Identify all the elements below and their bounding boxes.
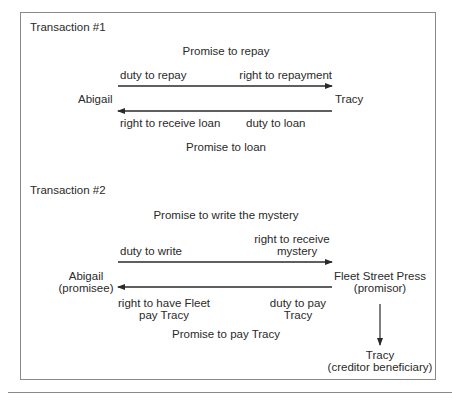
t1-right-to-receive-loan: right to receive loan	[120, 117, 220, 130]
arrows-layer	[0, 0, 452, 403]
t1-top-promise: Promise to repay	[120, 45, 332, 58]
t1-duty-to-loan: duty to loan	[246, 117, 305, 130]
t2-right-to-receive-line2: mystery	[262, 245, 332, 258]
t2-duty-to-write: duty to write	[120, 245, 182, 258]
t2-tracy-role: (creditor beneficiary)	[326, 361, 434, 374]
t1-bottom-promise: Promise to loan	[120, 141, 332, 154]
t1-right-to-repayment: right to repayment	[200, 69, 332, 82]
t2-abigail-role: (promisee)	[56, 282, 116, 295]
transaction-1-title: Transaction #1	[30, 21, 106, 34]
t1-duty-to-repay: duty to repay	[120, 69, 186, 82]
t2-top-promise: Promise to write the mystery	[110, 209, 342, 222]
t2-right-to-have-line2: pay Tracy	[118, 309, 210, 322]
t1-party-tracy: Tracy	[335, 93, 363, 106]
t2-fleet-role: (promisor)	[332, 282, 428, 295]
t2-bottom-promise: Promise to pay Tracy	[140, 328, 312, 341]
transaction-2-title: Transaction #2	[30, 184, 106, 197]
t2-duty-to-pay-line2: Tracy	[268, 309, 328, 322]
t1-party-abigail: Abigail	[78, 93, 113, 106]
